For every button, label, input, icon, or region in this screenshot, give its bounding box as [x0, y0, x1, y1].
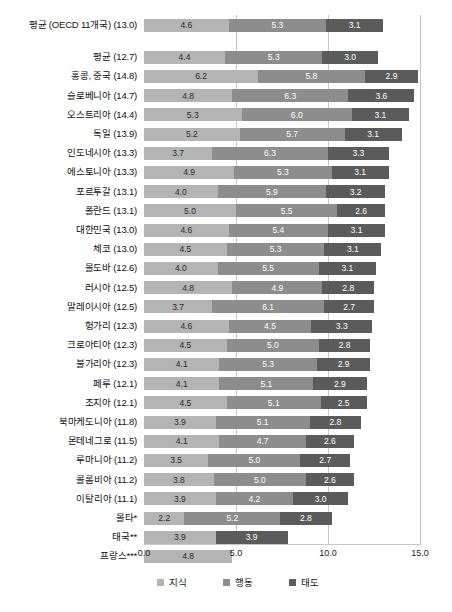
bar-segment-knowledge: 4.0	[144, 185, 218, 198]
bar-segment-knowledge: 3.9	[144, 531, 216, 544]
category-label: 몰도바 (12.6)	[85, 258, 137, 278]
bar-segment-knowledge: 4.5	[144, 339, 227, 352]
bar-segment-attitude: 3.1	[345, 128, 402, 141]
bar-segment-knowledge: 2.2	[144, 512, 184, 525]
bar-segment-knowledge: 3.9	[144, 492, 216, 505]
category-label: 체코 (13.0)	[93, 239, 137, 259]
category-label: 포르투갈 (13.1)	[76, 182, 137, 202]
legend-item-behavior[interactable]: 행동	[223, 575, 253, 589]
bar-segment-behavior: 5.1	[216, 416, 310, 429]
bar-segment-knowledge: 6.2	[144, 70, 258, 83]
bar-segment-behavior: 5.4	[229, 224, 328, 237]
bar-segment-knowledge: 4.1	[144, 435, 219, 448]
bar-segment-knowledge: 4.6	[144, 19, 229, 32]
legend-item-attitude[interactable]: 태도	[289, 575, 319, 589]
chart-row: 대한민국 (13.0)4.65.43.1	[144, 220, 420, 240]
bar-segment-attitude: 3.1	[319, 262, 376, 275]
category-label: 오스트리아 (14.4)	[67, 105, 137, 125]
legend-item-knowledge[interactable]: 지식	[157, 575, 187, 589]
bar-segment-attitude: 2.8	[310, 416, 362, 429]
bar-segment-behavior: 5.0	[208, 454, 300, 467]
category-label: 폴란드 (13.1)	[85, 201, 137, 221]
bar-segment-behavior: 5.8	[258, 70, 365, 83]
x-tick-label: 5.0	[230, 548, 243, 558]
bar-segment-attitude: 2.9	[365, 70, 418, 83]
bar-segment-behavior: 5.1	[219, 377, 313, 390]
category-label: 콜롬비아 (11.2)	[76, 470, 137, 490]
bar-segment-attitude: 3.3	[328, 147, 389, 160]
bar-segment-behavior: 6.3	[212, 147, 328, 160]
bar-segment-attitude: 2.9	[313, 377, 366, 390]
chart-row: 슬로베니아 (14.7)4.86.33.6	[144, 86, 420, 106]
chart-row: 체코 (13.0)4.55.33.1	[144, 239, 420, 259]
category-label: 인도네시아 (13.3)	[67, 143, 137, 163]
chart-row: 헝가리 (12.3)4.64.53.3	[144, 316, 420, 336]
bar-segment-behavior: 5.2	[184, 512, 280, 525]
bar-segment-behavior: 5.3	[225, 51, 323, 64]
bar-segment-attitude: 3.1	[352, 108, 409, 121]
category-label: 말레이시아 (12.5)	[67, 297, 137, 317]
chart-row: 몰타*2.25.22.8	[144, 508, 420, 528]
stacked-bar: 4.95.33.1	[144, 166, 389, 179]
legend-label: 행동	[235, 575, 253, 589]
category-label: 홍콩, 중국 (14.8)	[71, 66, 137, 86]
bar-segment-knowledge: 3.7	[144, 147, 212, 160]
stacked-bar: 5.05.52.6	[144, 204, 385, 217]
category-label: 루마니아 (11.2)	[76, 450, 137, 470]
bar-segment-knowledge: 4.5	[144, 243, 227, 256]
stacked-bar: 4.64.53.3	[144, 320, 372, 333]
chart-row: 평균 (OECD 11개국) (13.0)4.65.33.1	[144, 15, 420, 35]
bar-segment-knowledge: 4.8	[144, 281, 232, 294]
bar-segment-knowledge: 4.1	[144, 377, 219, 390]
category-label: 평균 (OECD 11개국) (13.0)	[29, 15, 137, 35]
bar-segment-behavior: 5.0	[214, 473, 306, 486]
bar-segment-knowledge: 3.5	[144, 454, 208, 467]
chart-row: 루마니아 (11.2)3.55.02.7	[144, 450, 420, 470]
bar-segment-attitude: 3.1	[324, 243, 381, 256]
stacked-bar: 4.55.02.8	[144, 339, 370, 352]
category-label: 크로아티아 (12.3)	[67, 335, 137, 355]
x-tick-label: 15.0	[411, 548, 429, 558]
chart-row: 북마케도니아 (11.8)3.95.12.8	[144, 412, 420, 432]
category-label: 이탈리아 (11.1)	[76, 489, 137, 509]
bar-segment-behavior: 4.9	[232, 281, 322, 294]
chart-row: 페루 (12.1)4.15.12.9	[144, 374, 420, 394]
bar-segment-attitude: 2.7	[324, 300, 374, 313]
bar-segment-attitude: 2.8	[319, 339, 371, 352]
category-label: 헝가리 (12.3)	[85, 316, 137, 336]
chart-row: 평균 (12.7)4.45.33.0	[144, 47, 420, 67]
chart-row: 콜롬비아 (11.2)3.85.02.6	[144, 470, 420, 490]
stacked-bar: 4.65.33.1	[144, 19, 383, 32]
category-label: 슬로베니아 (14.7)	[67, 86, 137, 106]
legend-label: 지식	[169, 575, 187, 589]
category-label: 평균 (12.7)	[93, 47, 137, 67]
category-label: 독일 (13.9)	[93, 124, 137, 144]
stacked-bar: 3.94.23.0	[144, 492, 348, 505]
category-label: 페루 (12.1)	[93, 374, 137, 394]
bar-segment-knowledge: 4.6	[144, 320, 229, 333]
category-label: 조지아 (12.1)	[85, 393, 137, 413]
chart-row: 몰도바 (12.6)4.05.53.1	[144, 258, 420, 278]
chart-row: 몬테네그로 (11.5)4.14.72.6	[144, 431, 420, 451]
bar-segment-knowledge: 4.1	[144, 358, 219, 371]
chart-row: 불가리아 (12.3)4.15.32.9	[144, 354, 420, 374]
bar-segment-behavior: 5.3	[229, 19, 327, 32]
bar-segment-attitude: 3.1	[332, 166, 389, 179]
bar-segment-behavior: 4.2	[216, 492, 293, 505]
category-label: 불가리아 (12.3)	[76, 354, 137, 374]
chart-row: 독일 (13.9)5.25.73.1	[144, 124, 420, 144]
stacked-bar: 3.76.12.7	[144, 300, 374, 313]
stacked-bar: 3.55.02.7	[144, 454, 350, 467]
bar-segment-knowledge: 3.7	[144, 300, 212, 313]
chart-row: 조지아 (12.1)4.55.12.5	[144, 393, 420, 413]
bar-segment-attitude: 3.0	[293, 492, 348, 505]
legend-swatch-icon	[223, 579, 230, 586]
bar-segment-behavior: 5.5	[218, 262, 319, 275]
bar-segment-attitude: 2.5	[321, 396, 367, 409]
bar-segment-knowledge: 4.5	[144, 396, 227, 409]
stacked-bar: 4.55.12.5	[144, 396, 367, 409]
stacked-bar: 4.05.53.1	[144, 262, 376, 275]
bar-segment-attitude: 2.6	[306, 473, 354, 486]
bar-segment-knowledge: 3.8	[144, 473, 214, 486]
bar-segment-knowledge: 5.2	[144, 128, 240, 141]
